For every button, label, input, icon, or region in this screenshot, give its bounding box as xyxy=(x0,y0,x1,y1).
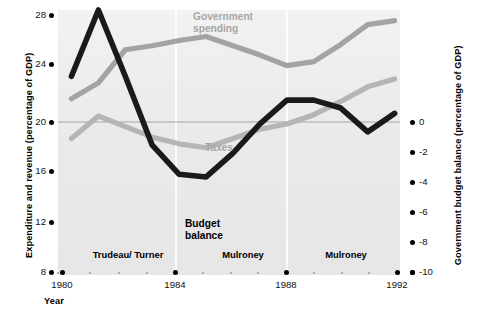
y-tick-label-left-12: 12 xyxy=(18,216,46,227)
x-axis-end-dot xyxy=(410,270,415,275)
y-tick-label-right--2: -2 xyxy=(419,146,449,157)
chart-figure: Expenditure and revenue (percentage of G… xyxy=(0,0,479,315)
x-tick-dot-1984 xyxy=(173,270,178,275)
x-tick-dot-minor xyxy=(146,272,148,274)
y-tick-label-left-16: 16 xyxy=(18,165,46,176)
y-tick-dot-left-20 xyxy=(49,120,54,125)
series-label-budget-balance: Budget balance xyxy=(185,218,223,242)
x-tick-label-1992: 1992 xyxy=(377,279,417,290)
y-tick-dot-left-12 xyxy=(49,220,54,225)
era-label-trudeau-turner: Trudeau/ Turner xyxy=(83,249,173,261)
x-tick-dot-1992 xyxy=(395,270,400,275)
x-tick-label-1984: 1984 xyxy=(155,279,195,290)
y-tick-dot-right--2 xyxy=(410,150,415,155)
x-tick-label-1980: 1980 xyxy=(42,279,82,290)
y-tick-label-right--6: -6 xyxy=(419,206,449,217)
y-tick-dot-right--6 xyxy=(410,210,415,215)
x-tick-dot-minor xyxy=(57,272,59,274)
x-tick-dot-minor xyxy=(202,272,204,274)
era-label-mulroney-first: Mulroney xyxy=(198,249,288,261)
y-tick-dot-right--8 xyxy=(410,240,415,245)
y-tick-dot-left-8 xyxy=(49,270,54,275)
x-tick-label-1988: 1988 xyxy=(266,279,306,290)
series-label-taxes: Taxes xyxy=(205,142,233,154)
x-tick-dot-minor xyxy=(230,272,232,274)
y-tick-label-right-0: 0 xyxy=(419,116,449,127)
y-tick-label-left-20: 20 xyxy=(18,116,46,127)
x-tick-dot-minor xyxy=(341,272,343,274)
y-axis-right-title: Government budget balance (percentage of… xyxy=(453,30,464,280)
y-tick-dot-left-16 xyxy=(49,169,54,174)
x-axis-title: Year xyxy=(44,296,64,307)
y-tick-label-left-28: 28 xyxy=(18,9,46,20)
x-tick-dot-minor xyxy=(313,272,315,274)
x-tick-dot-minor xyxy=(118,272,120,274)
y-tick-label-right--4: -4 xyxy=(419,176,449,187)
series-label-government-spending: Government spending xyxy=(193,11,253,35)
y-tick-dot-right-0 xyxy=(410,120,415,125)
x-tick-dot-1988 xyxy=(284,270,289,275)
x-tick-dot-1980 xyxy=(60,270,65,275)
y-tick-dot-right--4 xyxy=(410,180,415,185)
y-tick-label-right--10: -10 xyxy=(419,266,449,277)
y-tick-dot-left-24 xyxy=(49,62,54,67)
era-label-mulroney-second: Mulroney xyxy=(301,249,391,261)
y-tick-label-left-8: 8 xyxy=(18,266,46,277)
y-tick-dot-left-28 xyxy=(49,13,54,18)
y-tick-label-left-24: 24 xyxy=(18,58,46,69)
y-tick-label-right--8: -8 xyxy=(419,236,449,247)
